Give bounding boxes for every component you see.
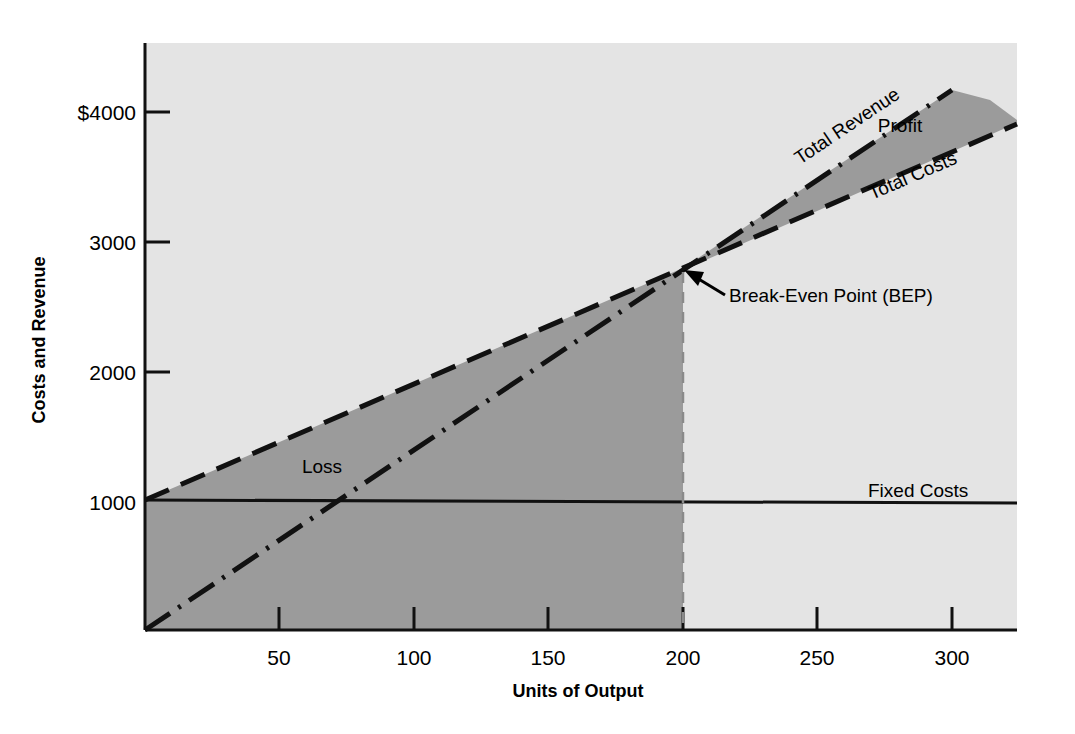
loss-region-label: Loss xyxy=(302,456,342,477)
y-tick-label-4000: $4000 xyxy=(78,101,136,124)
y-tick-label-1000: 1000 xyxy=(89,491,136,514)
x-tick-label-100: 100 xyxy=(396,646,431,669)
bep-annotation-label: Break-Even Point (BEP) xyxy=(729,285,933,306)
x-tick-label-200: 200 xyxy=(665,646,700,669)
x-tick-label-50: 50 xyxy=(267,646,290,669)
y-tick-label-3000: 3000 xyxy=(89,231,136,254)
fixed-costs-label: Fixed Costs xyxy=(868,480,968,501)
chart-canvas: $4000 3000 2000 1000 50 100 150 200 250 … xyxy=(0,0,1075,734)
x-tick-label-250: 250 xyxy=(799,646,834,669)
x-tick-label-150: 150 xyxy=(530,646,565,669)
x-axis-title: Units of Output xyxy=(513,681,644,701)
profit-region-label: Profit xyxy=(878,115,923,136)
y-tick-label-2000: 2000 xyxy=(89,361,136,384)
break-even-chart: $4000 3000 2000 1000 50 100 150 200 250 … xyxy=(0,0,1075,734)
x-tick-label-300: 300 xyxy=(934,646,969,669)
y-axis-title: Costs and Revenue xyxy=(29,256,49,423)
